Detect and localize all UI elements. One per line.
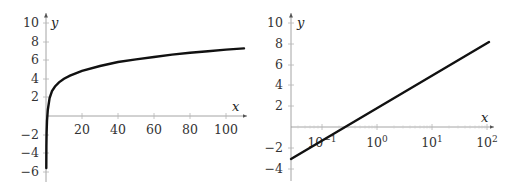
left-x-tick-labels: 20 40 60 80 100 — [74, 122, 238, 137]
y-tick-label: −4 — [21, 145, 39, 160]
y-tick-label: 8 — [31, 34, 39, 49]
y-tick-label: −2 — [21, 127, 39, 142]
y-tick-label: 10 — [267, 15, 283, 30]
right-y-tick-labels: 10 8 6 4 2 −2 −4 — [265, 15, 283, 176]
left-curve — [46, 48, 244, 168]
y-tick-label: 2 — [31, 89, 39, 104]
y-tick-label: 6 — [275, 57, 283, 72]
right-y-axis-label: y — [296, 15, 305, 30]
right-x-axis-label: x — [481, 110, 489, 125]
left-x-axis-label: x — [232, 99, 240, 114]
x-tick-label: 20 — [74, 122, 90, 137]
x-tick-label: 101 — [421, 134, 443, 150]
x-tick-label: 102 — [476, 134, 498, 150]
x-tick-label: 100 — [214, 122, 238, 137]
y-tick-label: 8 — [275, 36, 283, 51]
y-tick-label: −2 — [265, 140, 283, 155]
left-y-axis-label: y — [50, 15, 59, 30]
right-chart: 10−1 100 101 102 10 8 6 4 2 −2 −4 y x — [265, 13, 498, 181]
y-tick-label: 6 — [31, 52, 39, 67]
x-tick-label: 40 — [110, 122, 126, 137]
left-chart: 20 40 60 80 100 10 8 6 4 2 −2 −4 −6 — [21, 13, 247, 182]
figure: 20 40 60 80 100 10 8 6 4 2 −2 −4 −6 — [0, 0, 515, 189]
x-tick-label: 80 — [182, 122, 198, 137]
y-tick-label: 2 — [275, 98, 283, 113]
right-curve — [291, 42, 489, 159]
x-tick-label: 60 — [146, 122, 162, 137]
y-tick-label: −4 — [265, 161, 283, 176]
y-tick-label: −6 — [21, 164, 39, 179]
y-tick-label: 4 — [275, 77, 283, 92]
left-y-tick-labels: 10 8 6 4 2 −2 −4 −6 — [21, 15, 39, 179]
right-x-tick-labels: 10−1 100 101 102 — [307, 134, 497, 150]
x-tick-label: 100 — [366, 134, 388, 150]
y-tick-label: 4 — [31, 71, 39, 86]
y-tick-label: 10 — [23, 15, 39, 30]
